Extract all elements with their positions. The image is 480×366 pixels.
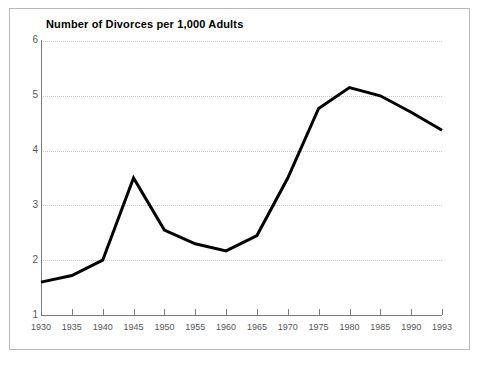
x-tick-1935: [72, 309, 73, 315]
y-axis-line: [41, 40, 42, 316]
y-tick-label-4: 4: [12, 145, 38, 155]
x-tick-1955: [195, 309, 196, 315]
x-tick-1970: [288, 309, 289, 315]
gridline-5: [41, 96, 442, 97]
x-tick-1985: [380, 309, 381, 315]
x-axis-line: [41, 315, 442, 316]
x-tick-1940: [103, 309, 104, 315]
chart-title: Number of Divorces per 1,000 Adults: [46, 18, 243, 30]
chart-figure: Number of Divorces per 1,000 Adults 6 5 …: [0, 0, 480, 366]
y-tick-label-6: 6: [12, 35, 38, 45]
x-tick-1945: [134, 309, 135, 315]
gridline-3: [41, 205, 442, 206]
x-tick-1965: [257, 309, 258, 315]
x-tick-1930: [41, 309, 42, 315]
gridline-4: [41, 151, 442, 152]
x-tick-1960: [226, 309, 227, 315]
gridline-2: [41, 260, 442, 261]
x-tick-1980: [350, 309, 351, 315]
x-tick-label-1993: 1993: [422, 322, 462, 332]
y-tick-label-3: 3: [12, 200, 38, 210]
x-tick-1993: [442, 309, 443, 315]
gridline-6: [41, 41, 442, 42]
y-tick-label-5: 5: [12, 90, 38, 100]
x-tick-1950: [164, 309, 165, 315]
plot-area: [41, 41, 442, 315]
x-tick-1975: [319, 309, 320, 315]
y-tick-label-1: 1: [12, 310, 38, 320]
x-tick-1990: [411, 309, 412, 315]
y-tick-label-2: 2: [12, 255, 38, 265]
